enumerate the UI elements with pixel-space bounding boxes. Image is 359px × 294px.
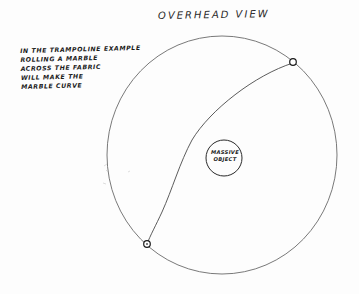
marble-end-dot-icon bbox=[146, 243, 148, 245]
massive-object-label-line: OBJECT bbox=[206, 156, 244, 163]
diagram-canvas: OVERHEAD VIEW IN THE TRAMPOLINE EXAMPLE … bbox=[0, 0, 359, 294]
massive-object-label-line: MASSIVE bbox=[206, 149, 244, 156]
diagram-drawing bbox=[0, 0, 359, 294]
massive-object-label: MASSIVE OBJECT bbox=[206, 149, 244, 163]
marble-start-icon bbox=[290, 59, 297, 66]
scan-artifacts bbox=[103, 164, 130, 184]
